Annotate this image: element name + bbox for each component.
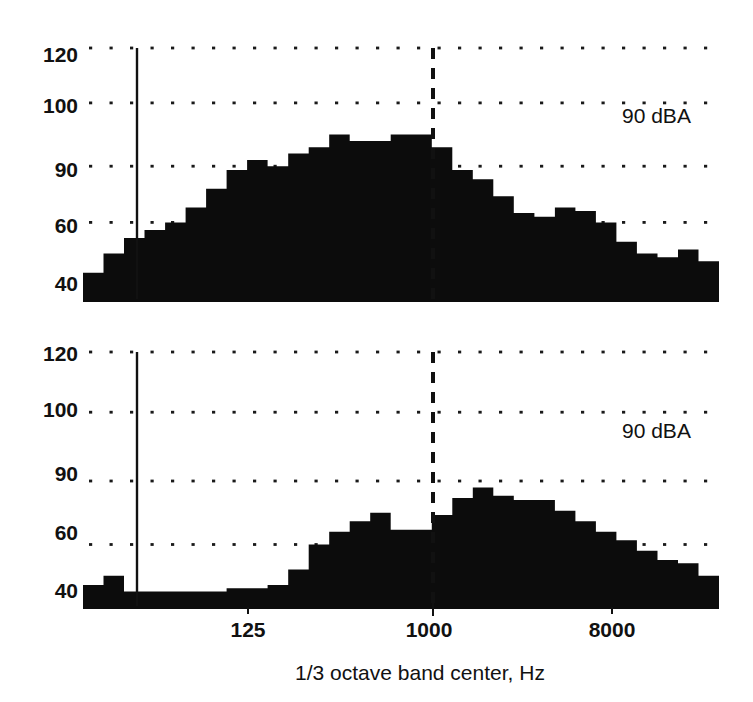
grid-dot [417, 47, 420, 50]
grid-dot [438, 47, 441, 50]
grid-dot [151, 102, 154, 105]
grid-dot [479, 480, 482, 483]
grid-dot [274, 47, 277, 50]
grid-dot [89, 165, 92, 168]
grid-dot [315, 411, 318, 414]
grid-dot [397, 47, 400, 50]
grid-dot [110, 480, 113, 483]
grid-dot [151, 411, 154, 414]
grid-dot [376, 102, 379, 105]
grid-dot [520, 47, 523, 50]
grid-dot [602, 47, 605, 50]
grid-dot [622, 221, 625, 224]
grid-dot [212, 102, 215, 105]
grid-dot [663, 543, 666, 546]
grid-dot [684, 411, 687, 414]
grid-dot [561, 165, 564, 168]
grid-dot [212, 47, 215, 50]
grid-dot [540, 165, 543, 168]
grid-dot [561, 480, 564, 483]
grid-dot [110, 351, 113, 354]
grid-dot [274, 480, 277, 483]
grid-dot [294, 47, 297, 50]
grid-dot [192, 102, 195, 105]
grid-dot [89, 221, 92, 224]
grid-dot [643, 351, 646, 354]
spectrum-figure: 120 100 90 60 40 90 dBA 120 100 90 60 40… [0, 0, 753, 702]
grid-dot [294, 480, 297, 483]
grid-dot [315, 351, 318, 354]
grid-dot [417, 411, 420, 414]
grid-dot [356, 411, 359, 414]
grid-dot [499, 411, 502, 414]
top-ytick-100: 100 [43, 94, 78, 117]
grid-dot [376, 480, 379, 483]
grid-dot [417, 102, 420, 105]
grid-dot [233, 102, 236, 105]
grid-dot [622, 351, 625, 354]
bottom-ytick-100: 100 [43, 398, 78, 421]
grid-dot [520, 411, 523, 414]
grid-dot [253, 351, 256, 354]
grid-dot [130, 47, 133, 50]
grid-dot [253, 480, 256, 483]
grid-dot [663, 480, 666, 483]
grid-dot [499, 480, 502, 483]
grid-dot [479, 102, 482, 105]
grid-dot [294, 543, 297, 546]
grid-dot [458, 480, 461, 483]
grid-dot [294, 411, 297, 414]
grid-dot [233, 480, 236, 483]
grid-dot [520, 351, 523, 354]
grid-dot [110, 221, 113, 224]
grid-dot [581, 47, 584, 50]
grid-dot [233, 411, 236, 414]
grid-dot [684, 351, 687, 354]
grid-dot [130, 221, 133, 224]
grid-dot [356, 102, 359, 105]
grid-dot [110, 411, 113, 414]
grid-dot [335, 47, 338, 50]
grid-dot [335, 411, 338, 414]
grid-dot [233, 543, 236, 546]
grid-dot [643, 543, 646, 546]
grid-dot [561, 102, 564, 105]
bottom-ytick-90: 90 [55, 462, 78, 485]
grid-dot [663, 411, 666, 414]
grid-dot [704, 165, 707, 168]
grid-dot [335, 351, 338, 354]
grid-dot [540, 351, 543, 354]
grid-dot [315, 47, 318, 50]
bottom-ytick-120: 120 [43, 342, 78, 365]
grid-dot [192, 351, 195, 354]
grid-dot [643, 47, 646, 50]
grid-dot [89, 47, 92, 50]
grid-dot [602, 480, 605, 483]
grid-dot [663, 47, 666, 50]
grid-dot [438, 351, 441, 354]
grid-dot [171, 165, 174, 168]
bottom-ytick-60: 60 [55, 521, 78, 544]
grid-dot [151, 543, 154, 546]
grid-dot [684, 47, 687, 50]
grid-dot [335, 480, 338, 483]
grid-dot [704, 351, 707, 354]
grid-dot [663, 221, 666, 224]
grid-dot [192, 47, 195, 50]
grid-dot [458, 351, 461, 354]
grid-dot [643, 480, 646, 483]
grid-dot [253, 47, 256, 50]
grid-dot [274, 543, 277, 546]
grid-dot [438, 102, 441, 105]
grid-dot [171, 351, 174, 354]
grid-dot [212, 543, 215, 546]
grid-dot [212, 351, 215, 354]
grid-dot [602, 102, 605, 105]
grid-dot [212, 165, 215, 168]
grid-dot [274, 102, 277, 105]
grid-dot [663, 165, 666, 168]
grid-dot [89, 543, 92, 546]
grid-dot [458, 102, 461, 105]
grid-dot [499, 47, 502, 50]
grid-dot [171, 102, 174, 105]
